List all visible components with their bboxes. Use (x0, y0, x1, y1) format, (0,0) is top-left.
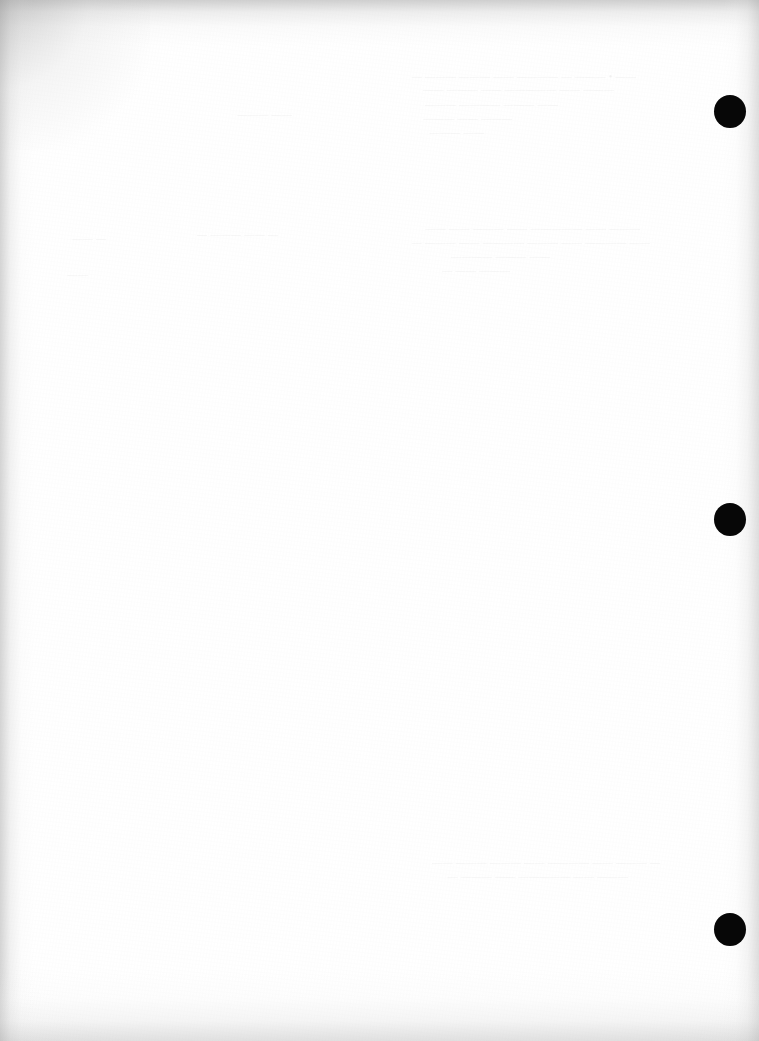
registration-mark (714, 95, 746, 128)
registration-mark (714, 913, 746, 946)
registration-mark (714, 503, 746, 536)
scanned-page: —— • ——— — ———— —— ——— ——— ———— —— —————… (0, 0, 759, 1041)
paper-background (0, 0, 759, 1041)
